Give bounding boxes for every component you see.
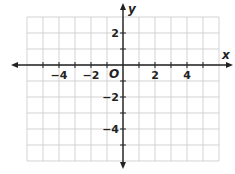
y-axis-top-arrow-icon [120,3,126,10]
y-axis-bottom-arrow-icon [120,162,126,169]
origin-label: O [109,67,119,81]
x-tick-label: 2 [151,69,159,82]
y-tick-label: −4 [102,123,119,136]
x-tick-label: −4 [51,69,68,82]
y-tick-label: −2 [102,91,119,104]
x-tick-label: 4 [183,69,191,82]
x-axis-label: x [221,48,231,62]
coordinate-plane: −4−2242−2−4 x y O [0,0,235,174]
y-tick-label: 2 [111,27,119,40]
axes [11,3,233,169]
x-axis-right-arrow-icon [226,62,233,68]
y-axis-label: y [128,2,137,16]
x-axis-left-arrow-icon [11,62,18,68]
x-tick-label: −2 [83,69,100,82]
